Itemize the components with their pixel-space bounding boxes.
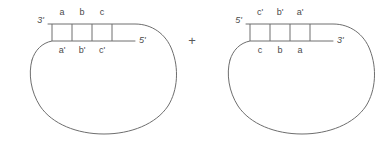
left-circular-strand: a b c a' b' c' 3' 5' — [30, 7, 176, 134]
left-bottom-segment-label-2: b' — [79, 45, 86, 55]
right-top-segment-label-3: a' — [297, 7, 304, 17]
right-circular-strand: c' b' a' c b a 5' 3' — [228, 7, 374, 134]
left-bottom-segment-label-1: a' — [59, 45, 66, 55]
left-top-segment-label-2: b — [79, 7, 84, 17]
left-top-segment-label-3: c — [100, 7, 105, 17]
left-top-strand-end-label: 3' — [37, 15, 44, 25]
molecular-diagram-figure: a b c a' b' c' 3' 5' + c' b' — [0, 0, 385, 141]
right-top-segment-label-1: c' — [257, 7, 264, 17]
plus-operator: + — [188, 33, 196, 48]
diagram-canvas: a b c a' b' c' 3' 5' + c' b' — [0, 0, 385, 141]
left-bottom-strand-end-label: 5' — [139, 35, 146, 45]
right-bottom-segment-label-3: a — [297, 45, 302, 55]
right-bottom-segment-label-1: c — [258, 45, 263, 55]
right-bottom-strand-end-label: 3' — [337, 35, 344, 45]
right-top-strand-end-label: 5' — [235, 15, 242, 25]
right-top-segment-label-2: b' — [277, 7, 284, 17]
right-bottom-segment-label-2: b — [277, 45, 282, 55]
left-top-segment-label-1: a — [59, 7, 64, 17]
left-bottom-segment-label-3: c' — [99, 45, 106, 55]
